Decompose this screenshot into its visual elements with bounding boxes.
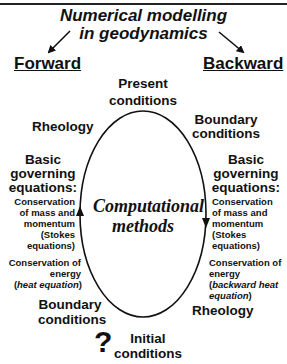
present-conditions-line-2: conditions: [93, 93, 193, 108]
backward-energy-line-2: energy: [209, 268, 240, 280]
computational-methods-line-2: methods: [93, 216, 193, 236]
forward-governing-line-1: Basic: [8, 152, 78, 167]
backward-governing-line-1: Basic: [210, 152, 282, 167]
backward-mass-line-3: momentum: [212, 218, 263, 230]
cycle-arrow-up-icon: [76, 206, 84, 216]
initial-conditions-line-1: Initial: [108, 331, 188, 346]
forward-rheology: Rheology: [32, 119, 94, 134]
geodynamics-modelling-diagram: Numerical modelling in geodynamics Forwa…: [0, 0, 287, 364]
forward-mass-line-4: (Stokes: [2, 229, 75, 241]
heat-equation-italic: heat equation: [17, 279, 79, 290]
forward-governing-line-3: equations:: [8, 180, 78, 195]
backward-energy-line-3: (backward heat: [209, 279, 278, 291]
backward-governing-line-2: governing: [210, 166, 282, 181]
equation-italic: equation: [209, 290, 249, 301]
backward-rheology: Rheology: [192, 303, 254, 318]
forward-energy-line-2: energy: [2, 268, 81, 280]
backward-boundary-line-1: Boundary: [186, 112, 266, 127]
backward-mass-line-1: Conservation: [212, 196, 273, 208]
forward-governing-line-2: governing: [8, 166, 78, 181]
backward-energy-line-4: equation): [209, 290, 252, 302]
backward-governing-line-3: equations:: [210, 180, 282, 195]
cycle-arrow-down-icon: [202, 218, 210, 228]
forward-energy-line-3: (heat equation): [2, 279, 82, 291]
forward-energy-line-1: Conservation of: [2, 257, 81, 269]
forward-mass-line-5: equations): [2, 240, 75, 252]
backward-arrow-icon: [219, 32, 243, 52]
forward-mass-line-2: of mass and: [2, 207, 75, 219]
computational-methods-line-1: Computational: [93, 196, 193, 216]
backward-heat-italic: backward heat: [212, 279, 278, 290]
forward-mass-line-1: Conservation: [2, 196, 75, 208]
present-conditions-line-1: Present: [93, 76, 193, 91]
forward-mass-line-3: momentum: [2, 218, 75, 230]
backward-mass-line-5: equations): [212, 240, 260, 252]
backward-energy-line-1: Conservation of: [209, 257, 281, 269]
backward-mass-line-4: (Stokes: [212, 229, 246, 241]
forward-boundary-line-2: conditions: [38, 312, 102, 327]
backward-boundary-line-2: conditions: [186, 126, 266, 141]
forward-boundary-line-1: Boundary: [38, 297, 102, 312]
backward-mass-line-2: of mass and: [212, 207, 267, 219]
initial-conditions-line-2: conditions: [108, 346, 188, 361]
forward-arrow-icon: [49, 31, 70, 52]
